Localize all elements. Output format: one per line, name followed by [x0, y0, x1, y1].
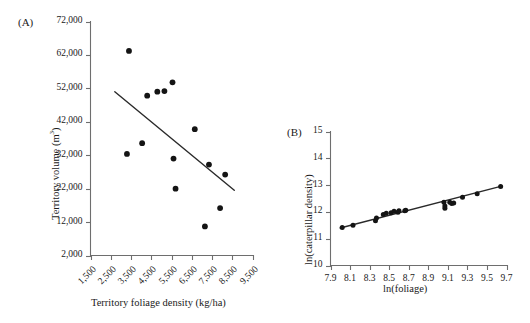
x-tick-label: 9.7 — [493, 273, 521, 283]
panel-b-axes — [326, 132, 508, 271]
data-point — [202, 224, 208, 230]
figure-container: (A) (B) Territory volume (m3) Territory … — [0, 0, 530, 323]
y-tick-label: 14 — [313, 152, 323, 162]
data-point — [498, 184, 503, 189]
y-tick-label: 10 — [313, 259, 323, 269]
data-point — [139, 140, 145, 146]
y-tick-label: 12,000 — [56, 216, 82, 226]
data-point — [475, 191, 480, 196]
data-point — [451, 201, 456, 206]
data-point — [124, 151, 130, 157]
y-tick-label: 11 — [313, 232, 322, 242]
data-point — [192, 126, 198, 132]
data-point — [350, 223, 355, 228]
data-point — [171, 156, 177, 162]
y-tick-label: 15 — [313, 125, 323, 135]
data-point — [403, 208, 408, 213]
data-point — [384, 211, 389, 216]
panel-a-regression-line — [115, 92, 234, 191]
data-point — [154, 89, 160, 95]
data-point — [460, 195, 465, 200]
panel-b-axis-lines — [331, 132, 507, 266]
y-tick-label: 2,000 — [61, 249, 82, 259]
y-tick-label: 13 — [313, 179, 323, 189]
data-point — [442, 206, 447, 211]
data-point — [144, 93, 150, 99]
data-point — [396, 208, 401, 213]
panel-a-axes — [86, 22, 254, 261]
y-tick-label: 12 — [313, 205, 323, 215]
data-point — [173, 186, 179, 192]
y-tick-label: 22,000 — [56, 182, 82, 192]
regression-line — [115, 92, 234, 191]
panel-a-data-points — [124, 48, 228, 229]
data-point — [126, 48, 132, 54]
data-point — [222, 172, 228, 178]
y-tick-label: 52,000 — [56, 82, 82, 92]
y-tick-label: 62,000 — [56, 48, 82, 58]
data-point — [340, 225, 345, 230]
data-point — [170, 79, 176, 85]
data-point — [374, 216, 379, 221]
data-point — [162, 88, 168, 94]
data-point — [217, 205, 223, 211]
y-tick-label: 72,000 — [56, 15, 82, 25]
y-tick-label: 32,000 — [56, 149, 82, 159]
data-point — [206, 162, 212, 168]
y-tick-label: 42,000 — [56, 115, 82, 125]
